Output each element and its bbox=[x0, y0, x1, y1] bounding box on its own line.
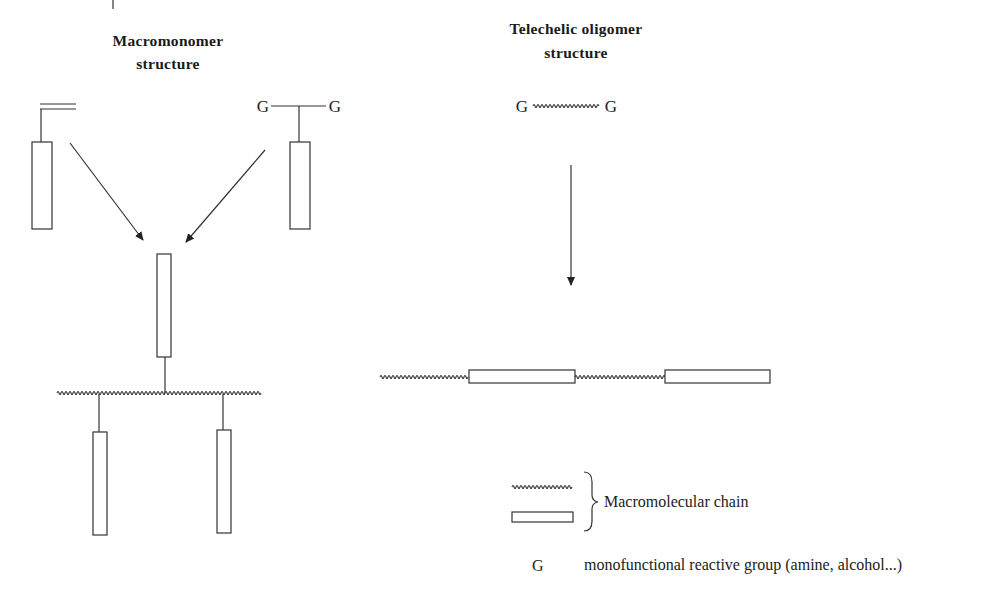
wavy-segment-2 bbox=[575, 376, 665, 379]
polymer-chain-block bbox=[290, 142, 310, 229]
oligomer-wavy-chain bbox=[533, 105, 599, 108]
legend-brace-icon bbox=[584, 472, 598, 531]
arrow-down-right-icon bbox=[70, 143, 143, 240]
arrow-down-left-icon bbox=[186, 150, 265, 242]
telechelic-section: Telechelic oligomer structure G G bbox=[380, 20, 770, 383]
polymer-chain-block bbox=[32, 142, 52, 229]
wavy-segment-1 bbox=[380, 376, 468, 379]
telechelic-title-line1: Telechelic oligomer bbox=[510, 20, 643, 37]
macromonomer-title-line1: Macromonomer bbox=[113, 32, 224, 49]
grafted-chain-right bbox=[217, 430, 231, 533]
grafted-chain-top bbox=[157, 254, 171, 357]
legend-g-symbol: G bbox=[532, 557, 544, 574]
legend-g-description: monofunctional reactive group (amine, al… bbox=[584, 556, 902, 574]
g-group-left-label: G bbox=[257, 97, 269, 116]
block-segment-1 bbox=[469, 370, 575, 383]
legend: Macromolecular chain G monofunctional re… bbox=[512, 472, 902, 574]
graft-copolymer-result bbox=[57, 254, 261, 535]
g-end-right-label: G bbox=[605, 97, 617, 116]
g-end-left-label: G bbox=[516, 97, 528, 116]
vinyl-macromonomer bbox=[32, 104, 76, 229]
difunctional-macromonomer: G G bbox=[257, 97, 341, 229]
legend-wavy-chain-icon bbox=[512, 486, 572, 489]
telechelic-oligomer: G G bbox=[516, 97, 617, 116]
macromonomer-section: Macromonomer structure G G bbox=[32, 32, 341, 535]
grafted-chain-left bbox=[93, 432, 107, 535]
g-group-right-label: G bbox=[329, 97, 341, 116]
telechelic-title-line2: structure bbox=[544, 44, 608, 61]
block-copolymer-result bbox=[380, 370, 770, 383]
legend-chain-label: Macromolecular chain bbox=[604, 493, 748, 510]
macromonomer-title-line2: structure bbox=[136, 55, 200, 72]
diagram-canvas: Macromonomer structure G G bbox=[0, 0, 988, 590]
backbone-wavy-chain bbox=[57, 392, 261, 395]
legend-block-icon bbox=[512, 512, 573, 522]
block-segment-2 bbox=[665, 370, 770, 383]
